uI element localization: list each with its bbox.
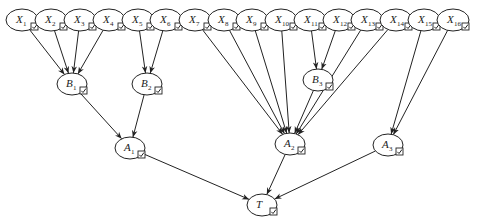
checkbox-checked-icon[interactable] <box>298 147 305 154</box>
node-a1[interactable]: A1 <box>115 137 145 159</box>
node-subscript: 5 <box>139 20 143 28</box>
node-label: B <box>312 73 319 85</box>
edge-x11-to-b3 <box>312 31 317 69</box>
node-label: B <box>66 77 73 89</box>
checkbox-checked-icon[interactable] <box>80 87 87 94</box>
node-x6[interactable]: X6 <box>150 9 182 31</box>
edge-x12-to-b3 <box>322 31 336 70</box>
node-subscript: 6 <box>167 20 171 28</box>
edge-x4-to-b1 <box>78 30 103 74</box>
edge-x2-to-b1 <box>55 31 69 74</box>
node-subscript: 4 <box>110 20 114 28</box>
edge-a1-to-t <box>143 154 249 200</box>
edge-x10-to-a2 <box>282 31 289 133</box>
node-subscript: 8 <box>225 20 229 28</box>
nodes-layer: X1X2X3X4X5X6X7X8X9X10X11X12X13X14X15X16B… <box>6 9 469 216</box>
node-x10[interactable]: X10 <box>265 9 297 31</box>
edge-a3-to-t <box>275 151 376 199</box>
edge-x9-to-a2 <box>255 31 286 134</box>
checkbox-checked-icon[interactable] <box>326 83 333 90</box>
edge-x6-to-b2 <box>150 31 163 74</box>
edge-x3-to-b1 <box>73 31 78 73</box>
edge-x15-to-a3 <box>391 31 421 134</box>
node-x7[interactable]: X7 <box>179 9 211 31</box>
checkbox-checked-icon[interactable] <box>270 208 277 215</box>
node-x11[interactable]: X11 <box>294 9 326 31</box>
node-label: B <box>141 77 148 89</box>
node-x13[interactable]: X13 <box>351 9 383 31</box>
node-x12[interactable]: X12 <box>323 9 355 31</box>
node-a3[interactable]: A3 <box>373 134 403 156</box>
node-x2[interactable]: X2 <box>35 9 67 31</box>
edge-b1-to-a1 <box>80 93 121 139</box>
node-a2[interactable]: A2 <box>275 133 305 155</box>
node-subscript: 3 <box>389 145 393 153</box>
node-label: A <box>381 138 389 150</box>
node-x9[interactable]: X9 <box>236 9 268 31</box>
node-subscript: 11 <box>311 20 318 28</box>
node-x3[interactable]: X3 <box>64 9 96 31</box>
node-subscript: 2 <box>148 84 152 92</box>
node-subscript: 2 <box>52 20 56 28</box>
node-subscript: 1 <box>23 20 27 28</box>
node-x14[interactable]: X14 <box>380 9 412 31</box>
node-subscript: 2 <box>291 144 295 152</box>
checkbox-checked-icon[interactable] <box>155 87 162 94</box>
node-subscript: 10 <box>282 20 290 28</box>
node-x8[interactable]: X8 <box>208 9 240 31</box>
node-x4[interactable]: X4 <box>93 9 125 31</box>
checkbox-checked-icon[interactable] <box>138 151 145 158</box>
edge-x16-to-a3 <box>393 30 447 134</box>
checkbox-checked-icon[interactable] <box>396 148 403 155</box>
node-subscript: 13 <box>368 20 376 28</box>
bayesian-network-diagram: X1X2X3X4X5X6X7X8X9X10X11X12X13X14X15X16B… <box>0 0 479 224</box>
node-subscript: 3 <box>81 20 85 28</box>
node-b1[interactable]: B1 <box>57 73 87 95</box>
node-subscript: 16 <box>454 20 462 28</box>
checkbox-checked-icon[interactable] <box>462 23 469 30</box>
node-subscript: 3 <box>319 80 323 88</box>
node-x16[interactable]: X16 <box>437 9 469 31</box>
node-x5[interactable]: X5 <box>122 9 154 31</box>
node-x1[interactable]: X1 <box>6 9 38 31</box>
node-b3[interactable]: B3 <box>303 69 333 91</box>
node-subscript: 7 <box>196 20 200 28</box>
edge-x8-to-a2 <box>230 30 285 134</box>
edges-layer <box>30 30 448 200</box>
node-x15[interactable]: X15 <box>408 9 440 31</box>
node-subscript: 1 <box>131 148 135 156</box>
node-label: T <box>256 198 263 210</box>
edge-x1-to-b1 <box>30 30 65 75</box>
node-subscript: 9 <box>253 20 257 28</box>
node-subscript: 14 <box>397 20 405 28</box>
node-subscript: 12 <box>340 20 348 28</box>
node-t[interactable]: T <box>247 194 277 216</box>
edge-x5-to-b2 <box>140 31 146 73</box>
edge-a2-to-t <box>267 154 285 194</box>
node-label: A <box>123 141 131 153</box>
edge-b2-to-a1 <box>133 95 144 137</box>
node-subscript: 1 <box>73 84 77 92</box>
node-label: A <box>283 137 291 149</box>
node-b2[interactable]: B2 <box>132 73 162 95</box>
node-subscript: 15 <box>425 20 433 28</box>
